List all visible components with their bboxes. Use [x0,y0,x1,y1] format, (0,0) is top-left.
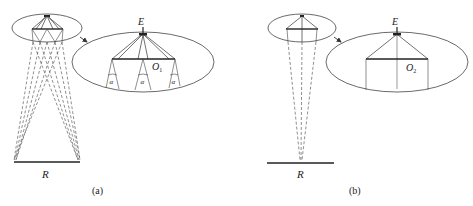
receiver-label-a: R [41,168,49,180]
caption-a: (a) [92,185,103,197]
zoom-arrow-a [80,37,87,42]
angle-label-a-2: α [141,78,145,86]
zoom-arrow-b [334,37,341,42]
panel-b: R E O2 (b) [267,14,468,197]
center-label-b: O2 [406,62,416,74]
roof-lines-large-a [112,35,175,59]
beams-a [14,42,80,160]
angle-label-a-1: α [110,78,114,86]
emitter-label-b: E [391,16,398,27]
angle-label-a-3: α [172,78,176,86]
diagram-canvas: R E O1 α [0,0,473,206]
emitter-label-a: E [137,16,144,27]
center-label-a: O1 [152,61,162,73]
panel-a: R E O1 α [12,14,214,197]
caption-b: (b) [349,185,361,197]
roof-lines-small-a [32,16,63,29]
beams-b [288,42,316,160]
receiver-label-b: R [296,168,304,180]
small-ellipse-a [12,14,82,42]
